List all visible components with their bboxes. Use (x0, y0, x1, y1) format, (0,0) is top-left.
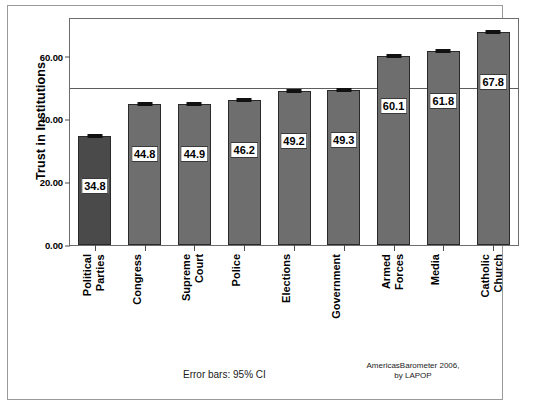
bar[interactable] (228, 100, 261, 245)
x-tick-mark (194, 245, 195, 251)
bar-value-label: 67.8 (479, 74, 506, 90)
y-tick-label: 40.00 (40, 114, 70, 125)
x-axis-label: Police (230, 254, 243, 286)
x-tick-mark (344, 245, 345, 251)
error-bar (336, 88, 351, 92)
x-axis-label: Elections (280, 254, 293, 303)
error-bar (137, 102, 152, 106)
bar-value-label: 34.8 (81, 178, 108, 194)
error-bar (287, 89, 302, 93)
error-bar (486, 30, 501, 34)
bar[interactable] (477, 32, 510, 245)
bar[interactable] (327, 90, 360, 245)
bar-group[interactable]: 44.9 (178, 19, 211, 245)
bar-value-label: 44.8 (131, 146, 158, 162)
bar-group[interactable]: 49.3 (327, 19, 360, 245)
bar-group[interactable]: 46.2 (228, 19, 261, 245)
bar-value-label: 61.8 (430, 93, 457, 109)
y-tick-label: 60.00 (40, 51, 70, 62)
bar-group[interactable]: 61.8 (427, 19, 460, 245)
x-axis-label: Armed Forces (380, 254, 405, 290)
x-axis-label: Political Parties (81, 254, 106, 296)
x-axis-label: Government (330, 254, 343, 319)
error-bar (187, 102, 202, 106)
x-tick-mark (443, 245, 444, 251)
footnote-error-bars: Error bars: 95% CI (183, 369, 266, 380)
footnote-source: AmericasBarometer 2006, by LAPOP (338, 361, 488, 380)
plot-inner: 0.0020.0040.0060.00 34.844.844.946.249.2… (70, 19, 518, 245)
x-tick-mark (394, 245, 395, 251)
x-tick-mark (145, 245, 146, 251)
error-bar (237, 98, 252, 102)
bar[interactable] (427, 51, 460, 245)
error-bar (436, 49, 451, 53)
bar[interactable] (377, 56, 410, 245)
x-axis-label: Catholic Church (479, 254, 504, 297)
x-tick-mark (95, 245, 96, 251)
y-tick-label: 0.00 (45, 240, 70, 251)
error-bar (87, 134, 102, 138)
y-tick-label: 20.00 (40, 177, 70, 188)
x-tick-mark (294, 245, 295, 251)
x-axis-label: Congress (131, 254, 144, 305)
bar-value-label: 46.2 (231, 142, 258, 158)
footnote-source-line2: by LAPOP (338, 371, 488, 381)
bar-group[interactable]: 60.1 (377, 19, 410, 245)
bar-value-label: 44.9 (181, 146, 208, 162)
x-axis-label: Supreme Court (180, 254, 205, 301)
bar[interactable] (278, 91, 311, 245)
bar-group[interactable]: 34.8 (78, 19, 111, 245)
x-axis-label: Media (429, 254, 442, 285)
footnote-source-line1: AmericasBarometer 2006, (338, 361, 488, 371)
bar-group[interactable]: 44.8 (128, 19, 161, 245)
bar[interactable] (128, 104, 161, 245)
x-tick-mark (244, 245, 245, 251)
error-bar (386, 54, 401, 58)
chart-figure: Trust in Institutions 0.0020.0040.0060.0… (7, 5, 503, 400)
plot-area: 0.0020.0040.0060.00 34.844.844.946.249.2… (69, 18, 519, 246)
bar-group[interactable]: 67.8 (477, 19, 510, 245)
x-tick-mark (493, 245, 494, 251)
bar-group[interactable]: 49.2 (278, 19, 311, 245)
bar[interactable] (178, 104, 211, 245)
bar-value-label: 49.2 (280, 133, 307, 149)
bar-value-label: 60.1 (380, 98, 407, 114)
bar-value-label: 49.3 (330, 132, 357, 148)
